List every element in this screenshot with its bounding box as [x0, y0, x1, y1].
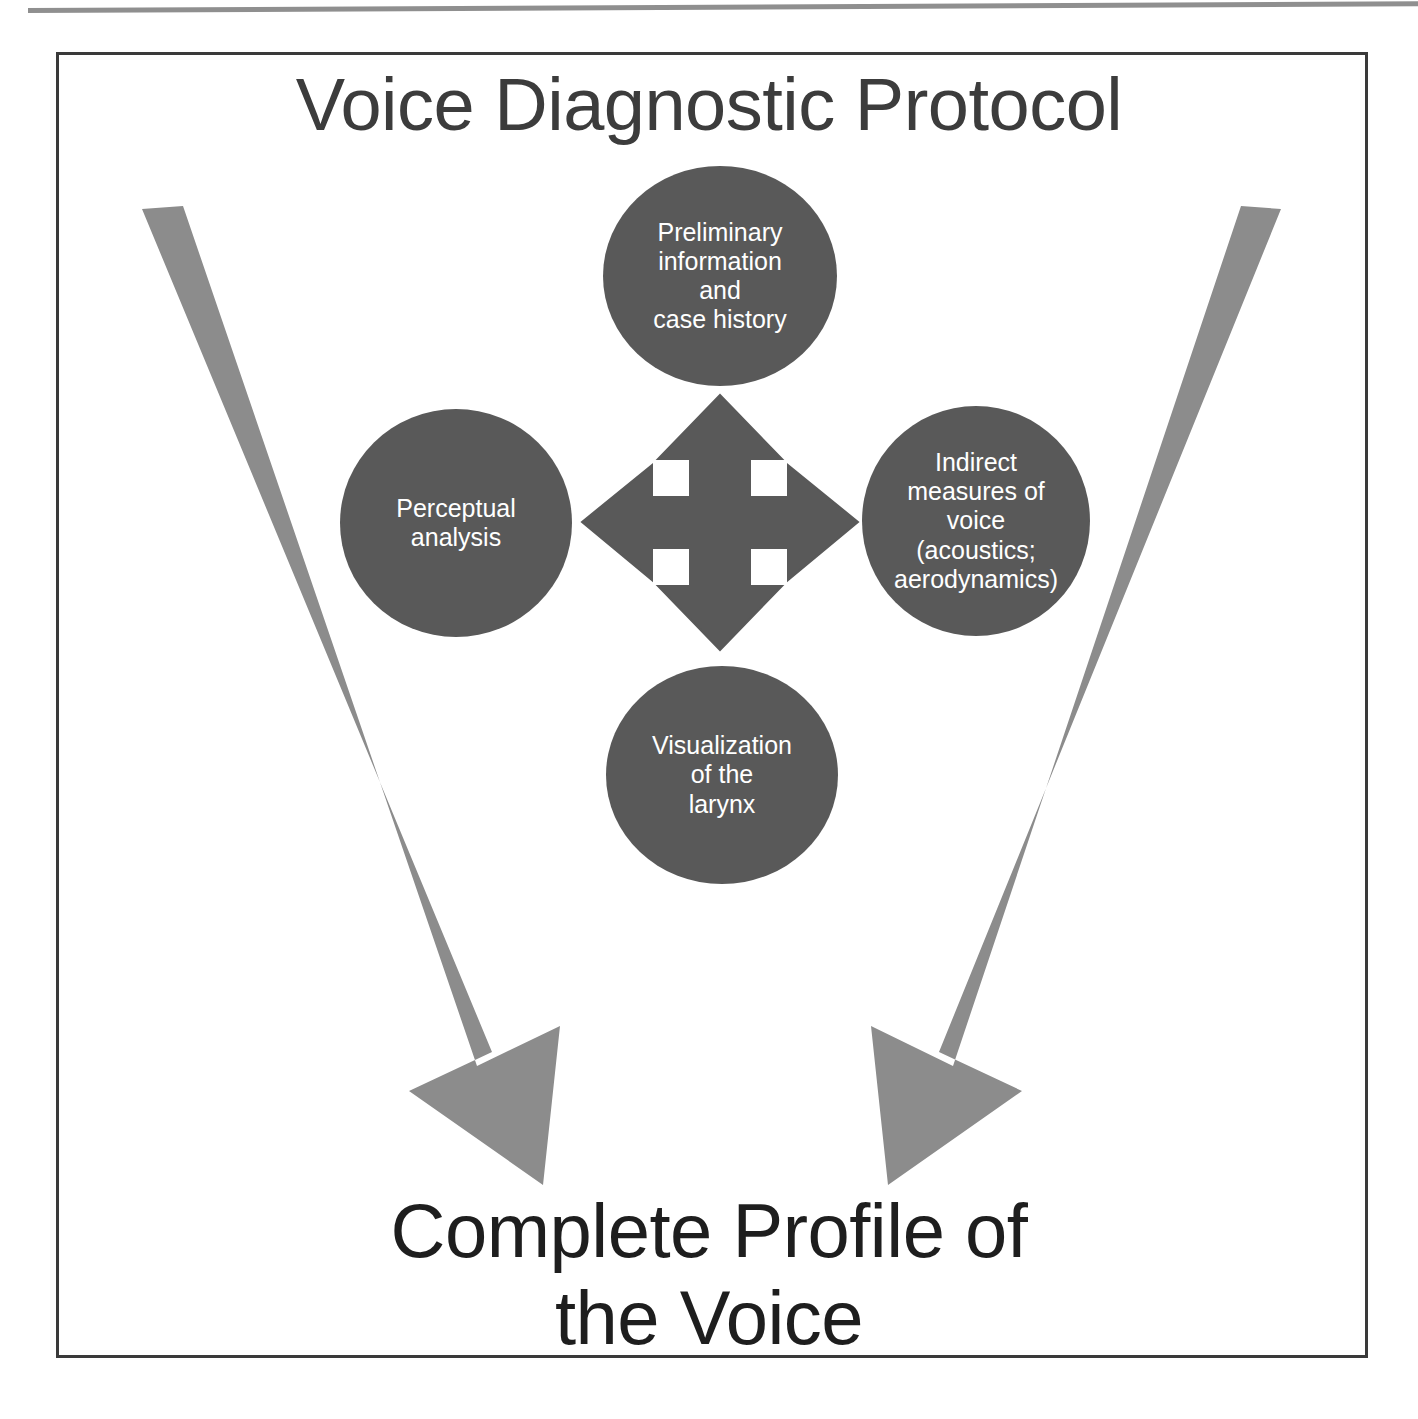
node-visualization-larynx: Visualization of the larynx	[606, 666, 838, 884]
node-preliminary-information: Preliminary information and case history	[603, 166, 837, 386]
node-perceptual-analysis: Perceptual analysis	[340, 409, 572, 637]
figure-canvas: Voice Diagnostic Protocol Preliminary in…	[0, 0, 1418, 1419]
node-visualization-label: Visualization of the larynx	[652, 731, 792, 819]
four-way-arrow-icon	[578, 391, 862, 654]
figure-title: Voice Diagnostic Protocol	[0, 66, 1418, 144]
node-indirect-measures: Indirect measures of voice (acoustics; a…	[862, 406, 1090, 636]
node-preliminary-label: Preliminary information and case history	[653, 218, 786, 335]
node-perceptual-label: Perceptual analysis	[396, 494, 516, 553]
page-top-rule	[28, 1, 1418, 13]
figure-outcome-label: Complete Profile of the Voice	[0, 1188, 1418, 1361]
node-indirect-label: Indirect measures of voice (acoustics; a…	[894, 448, 1058, 594]
